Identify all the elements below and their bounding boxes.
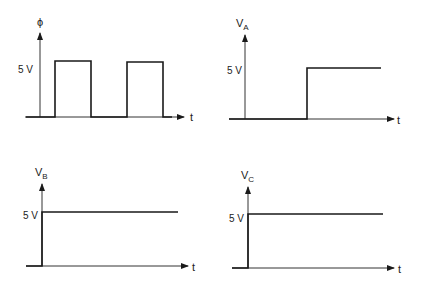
step-trace (26, 212, 178, 266)
y-axis-label: VC (241, 169, 254, 184)
level-label: 5 V (18, 64, 33, 75)
y-axis-label: VB (35, 166, 48, 181)
x-axis-label: t (190, 111, 193, 123)
step-trace (229, 68, 381, 119)
level-label: 5 V (227, 65, 242, 76)
panel-va: VA 5 V t (227, 17, 400, 126)
panel-vb: VB 5 V t (23, 166, 195, 273)
panel-phi: ϕ 5 V t (18, 16, 193, 123)
x-axis-label: t (398, 263, 401, 275)
square-wave-trace (26, 61, 172, 117)
x-axis-label: t (192, 261, 195, 273)
y-axis-label: ϕ (37, 16, 43, 28)
y-axis-label: VA (236, 17, 249, 32)
timing-diagram: ϕ 5 V t VA 5 V t VB 5 V t VC 5 V t (0, 0, 422, 290)
step-trace (232, 214, 383, 268)
level-label: 5 V (23, 210, 38, 221)
level-label: 5 V (229, 213, 244, 224)
x-axis-label: t (397, 114, 400, 126)
panel-vc: VC 5 V t (229, 169, 401, 275)
